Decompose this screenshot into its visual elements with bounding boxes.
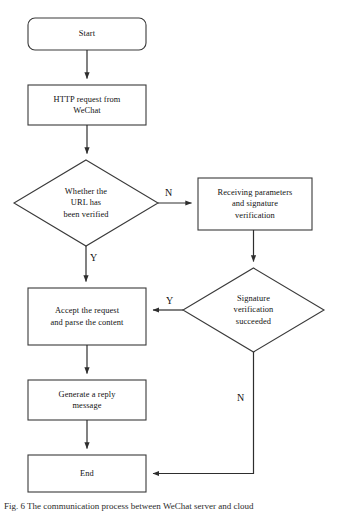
figure-caption: Fig. 6 The communication process between…: [4, 500, 338, 512]
flowchart-container: receiving parameters --> accept the requ…: [0, 0, 342, 512]
node-receiving-parameters-shape: [198, 178, 312, 230]
node-accept-request-shape: [28, 288, 146, 345]
edge-signature-no-to-end: [153, 352, 254, 474]
node-http-request-shape: [28, 85, 146, 125]
node-url-verified-decision-shape: [14, 160, 158, 246]
node-end-shape: [28, 455, 146, 492]
node-generate-reply-shape: [28, 380, 146, 420]
node-signature-decision-shape: [183, 268, 324, 352]
flowchart-canvas: receiving parameters --> accept the requ…: [0, 0, 342, 512]
node-start-shape: [28, 18, 146, 50]
